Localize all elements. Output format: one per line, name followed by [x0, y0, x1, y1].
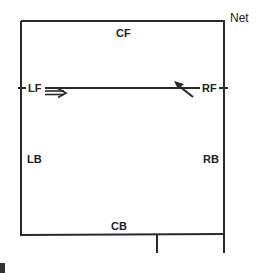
corner-marker — [0, 263, 5, 273]
double-arrow-right-icon — [45, 89, 66, 98]
position-rb: RB — [203, 154, 219, 165]
court-bottom-line — [21, 234, 225, 235]
position-lf: LF — [28, 83, 41, 94]
court-diagram — [0, 0, 260, 273]
position-lb: LB — [27, 154, 42, 165]
position-rf: RF — [202, 83, 217, 94]
position-cf: CF — [116, 28, 131, 39]
court-outline — [18, 21, 228, 253]
net-label: Net — [230, 12, 249, 24]
position-cb: CB — [111, 221, 127, 232]
